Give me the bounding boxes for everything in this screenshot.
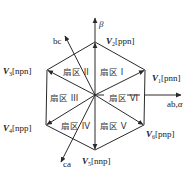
bc-axis-label: bc [53, 36, 62, 46]
sector-ii-label: 扇区 II [63, 67, 89, 77]
sector-i-label: 扇区 I [100, 67, 123, 77]
vector-v1-label: V1[pnn] [152, 73, 181, 84]
vector-v3-label: V3[npn] [3, 66, 32, 77]
vector-v2-label: V2[ppn] [106, 36, 135, 47]
alpha-axis-label: ab,α [167, 99, 183, 109]
ca-axis-label: ca [63, 159, 71, 169]
vector-v4-label: V4[npp] [3, 123, 32, 134]
sector-vi-label: 扇区 VI [109, 93, 138, 103]
sector-v-label: 扇区 V [100, 121, 127, 131]
vector-v5-label: V5[nnp] [82, 156, 111, 167]
beta-axis-label: β [98, 19, 104, 29]
sector-iii-label: 扇区 III [50, 93, 78, 103]
space-vector-diagram: β ab,α bc ca V2[ppn] V1[pnn] V3[npn] V4[… [0, 0, 194, 180]
sector-iv-label: 扇区 IV [61, 121, 90, 131]
vector-v6-label: V6[pnp] [146, 129, 175, 140]
